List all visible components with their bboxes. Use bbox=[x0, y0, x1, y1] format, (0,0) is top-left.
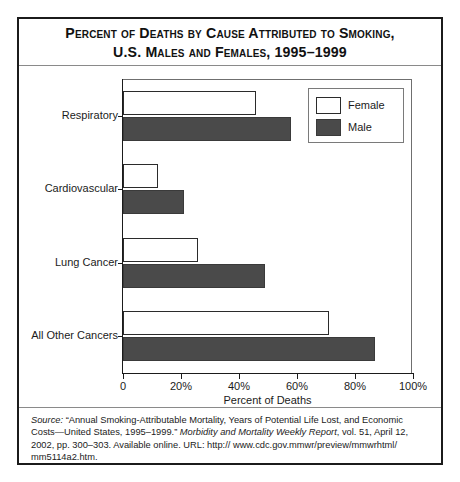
category-label-all-other-cancers: All Other Cancers bbox=[18, 329, 118, 341]
page-title-line-1: Percent of Deaths by Cause Attributed to… bbox=[65, 24, 394, 43]
bar-female-lung-cancer bbox=[123, 238, 198, 262]
x-axis-tick-label: 100% bbox=[399, 380, 427, 392]
x-axis-tick bbox=[239, 373, 240, 379]
male-swatch-icon bbox=[316, 119, 341, 136]
x-axis-tick-label: 0 bbox=[120, 380, 126, 392]
chart-legend: Female Male bbox=[308, 88, 404, 143]
x-axis-tick bbox=[123, 373, 124, 379]
source-note-text: Source: “Annual Smoking-Attributable Mor… bbox=[31, 414, 429, 464]
x-axis-tick bbox=[355, 373, 356, 379]
bar-female-respiratory bbox=[123, 91, 256, 115]
chart-title-block: Percent of Deaths by Cause Attributed to… bbox=[19, 19, 441, 66]
category-label-respiratory: Respiratory bbox=[18, 109, 118, 121]
x-axis-tick bbox=[413, 373, 414, 379]
category-label-cardiovascular: Cardiovascular bbox=[18, 182, 118, 194]
category-axis-labels: RespiratoryCardiovascularLung CancerAll … bbox=[19, 79, 118, 373]
x-axis-tick-label: 20% bbox=[170, 380, 192, 392]
x-axis-tick-label: 60% bbox=[286, 380, 308, 392]
legend-item-male: Male bbox=[316, 116, 403, 138]
bar-female-all-other-cancers bbox=[123, 311, 329, 335]
category-label-lung-cancer: Lung Cancer bbox=[18, 256, 118, 268]
bar-male-respiratory bbox=[123, 117, 291, 141]
bar-male-lung-cancer bbox=[123, 264, 265, 288]
x-axis-title: Percent of Deaths bbox=[122, 394, 413, 406]
x-axis-tick-label: 80% bbox=[344, 380, 366, 392]
female-swatch-icon bbox=[316, 97, 341, 114]
x-axis-tick bbox=[297, 373, 298, 379]
category-axis-line bbox=[122, 373, 413, 374]
legend-label-female: Female bbox=[348, 99, 385, 111]
chart-region: RespiratoryCardiovascularLung CancerAll … bbox=[19, 67, 441, 407]
bar-male-all-other-cancers bbox=[123, 337, 375, 361]
legend-label-male: Male bbox=[348, 121, 372, 133]
page-title-line-2: U.S. Males and Females, 1995–1999 bbox=[113, 43, 347, 62]
figure-panel: Percent of Deaths by Cause Attributed to… bbox=[17, 17, 443, 465]
source-note-block: Source: “Annual Smoking-Attributable Mor… bbox=[19, 407, 441, 463]
source-journal: Morbidity and Mortality Weekly Report bbox=[180, 427, 337, 437]
x-axis-tick-label: 40% bbox=[228, 380, 250, 392]
x-axis-tick bbox=[181, 373, 182, 379]
bar-female-cardiovascular bbox=[123, 164, 158, 188]
source-label: Source: bbox=[31, 415, 63, 425]
bar-male-cardiovascular bbox=[123, 190, 184, 214]
legend-item-female: Female bbox=[316, 94, 403, 116]
